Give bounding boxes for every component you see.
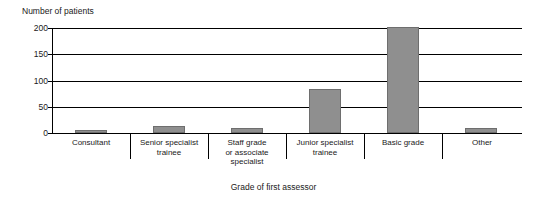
y-tick-label-150: 150 — [34, 49, 48, 59]
bar-basic-grade — [387, 27, 419, 133]
bar-senior-specialist-trainee — [153, 126, 185, 133]
x-tick-label-line: or associate — [208, 148, 286, 158]
y-tick-label-100: 100 — [34, 76, 48, 86]
x-tick-label-line: Staff grade — [208, 138, 286, 148]
gridline-200 — [52, 28, 522, 29]
x-tick-label-senior-specialist-trainee: Senior specialist trainee — [130, 138, 208, 157]
gridline-50 — [52, 107, 522, 108]
x-tick-label-consultant: Consultant — [52, 138, 130, 148]
x-tick-label-line: Junior specialist — [286, 138, 364, 148]
gridline-150 — [52, 54, 522, 55]
x-tick-label-basic-grade: Basic grade — [364, 138, 442, 148]
x-axis-title: Grade of first assessor — [0, 182, 547, 192]
x-tick-label-line: Senior specialist — [130, 138, 208, 148]
x-tick-label-junior-specialist-trainee: Junior specialist trainee — [286, 138, 364, 157]
x-tick-label-line: trainee — [286, 148, 364, 158]
y-axis-line — [52, 28, 53, 134]
bar-chart: Number of patients 0 50 100 150 200 Cons… — [0, 0, 547, 202]
x-axis-line — [52, 133, 522, 134]
bar-junior-specialist-trainee — [309, 89, 341, 133]
x-tick-label-staff-grade: Staff grade or associate specialist — [208, 138, 286, 167]
x-tick-label-line: Basic grade — [364, 138, 442, 148]
y-axis-title: Number of patients — [22, 6, 94, 16]
x-tick-label-line: trainee — [130, 148, 208, 158]
gridline-100 — [52, 81, 522, 82]
x-tick-label-line: Other — [442, 138, 522, 148]
y-axis-tick-labels: 0 50 100 150 200 — [24, 28, 48, 133]
x-tick-label-line: specialist — [208, 157, 286, 167]
y-tick-label-50: 50 — [39, 102, 48, 112]
y-tick-label-200: 200 — [34, 23, 48, 33]
x-tick-label-other: Other — [442, 138, 522, 148]
x-tick-label-line: Consultant — [52, 138, 130, 148]
plot-area — [52, 28, 522, 133]
